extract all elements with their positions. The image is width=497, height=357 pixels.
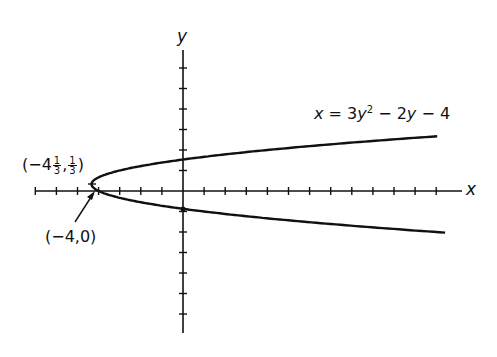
eq-mid: − 2 (373, 104, 407, 123)
arrowhead-icon (87, 191, 95, 200)
eq-y1: y (357, 104, 366, 123)
eq-tail: − 4 (416, 104, 450, 123)
vertex-sep: , (62, 155, 67, 174)
eq-y2: y (407, 104, 416, 123)
frac-den: 3 (69, 166, 75, 175)
eq-eq: = 3 (323, 104, 357, 123)
equation-label: x = 3y2 − 2y − 4 (314, 104, 450, 123)
parabola-graph (0, 0, 497, 357)
vertex-y-fraction: 13 (68, 156, 76, 175)
vertex-close: ) (78, 155, 84, 174)
y-axis-label: y (177, 26, 187, 46)
vertex-x-fraction: 13 (53, 156, 61, 175)
x-intercept-label: (−4,0) (45, 227, 96, 246)
frac-den: 3 (54, 166, 60, 175)
y-intercept-dot (181, 207, 186, 212)
vertex-whole: (−4 (22, 155, 52, 174)
parabola-curve (92, 136, 446, 232)
x-axis-label: x (466, 179, 476, 199)
vertex-label: (−413,13) (22, 155, 84, 175)
